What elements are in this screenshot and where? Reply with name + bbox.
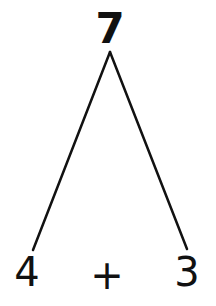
number-bond-diagram: 7 4 + 3 [0,0,216,306]
right-part-number: 3 [170,252,204,292]
left-part-number: 4 [10,252,44,292]
plus-operator: + [90,255,124,295]
right-connector-line [110,52,187,249]
whole-number: 7 [90,8,130,50]
left-connector-line [33,52,110,250]
